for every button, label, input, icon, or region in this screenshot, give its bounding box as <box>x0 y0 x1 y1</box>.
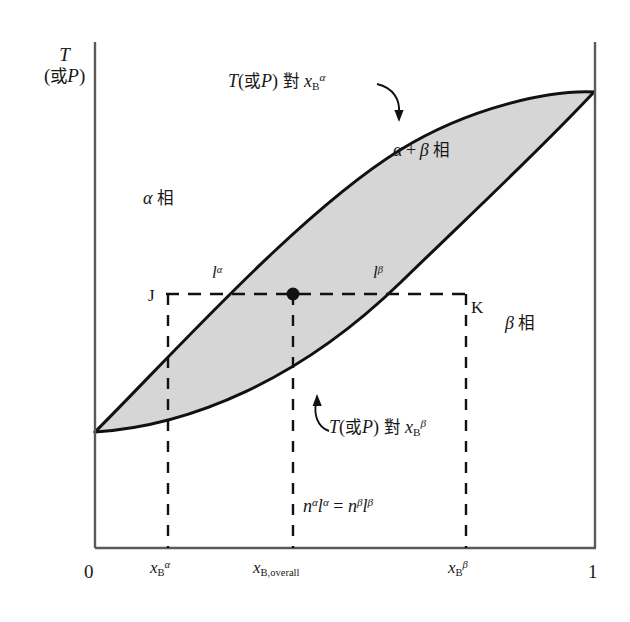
x-tick-label-x-b-overall: xB,overall <box>253 558 299 577</box>
upper-curve-annotation: T(或P) 對 xBα <box>228 71 325 92</box>
han-versus-glyph: 對 <box>283 72 300 91</box>
overall-composition-marker <box>287 288 300 301</box>
han-or-glyph: 或 <box>244 72 261 91</box>
phase-diagram-figure: T (或P) T(或P) 對 xBα T(或P) 對 xBβ α + β 相 α… <box>0 0 630 622</box>
x-tick-label-one: 1 <box>588 561 598 582</box>
lower-curve-annotation: T(或P) 對 xBβ <box>329 417 426 438</box>
two-phase-region-fill <box>95 92 594 432</box>
tie-line-left-segment-label: lα <box>212 263 222 282</box>
x-tick-label-x-b-alpha: xBα <box>150 558 170 577</box>
lever-rule-equation: nαlα = nβlβ <box>303 496 373 516</box>
point-k-label: K <box>471 298 483 317</box>
alpha-phase-region-label: α 相 <box>143 188 174 209</box>
y-axis-label-line1: T <box>44 44 85 65</box>
han-versus-glyph: 對 <box>384 418 401 437</box>
upper-curve-arrowhead <box>394 110 403 122</box>
point-j-label: J <box>148 286 155 305</box>
han-phase-glyph: 相 <box>157 189 174 208</box>
alpha-beta-phase-region-label: α + β 相 <box>393 140 450 161</box>
upper-curve-leader-arrow <box>377 84 399 113</box>
han-phase-glyph: 相 <box>518 314 535 333</box>
lower-curve-arrowhead <box>313 394 322 406</box>
han-phase-glyph: 相 <box>433 141 450 160</box>
lower-curve-leader-arrow <box>315 403 329 431</box>
tie-line-right-segment-label: lβ <box>373 263 383 282</box>
x-tick-label-x-b-beta: xBβ <box>448 558 468 577</box>
x-tick-label-zero: 0 <box>84 561 94 582</box>
han-or-glyph: 或 <box>345 418 362 437</box>
han-or-glyph: 或 <box>50 66 67 86</box>
beta-phase-region-label: β 相 <box>505 313 535 334</box>
phase-diagram-canvas <box>0 0 630 622</box>
y-axis-label-line2: (或P) <box>44 65 85 87</box>
y-axis-label: T (或P) <box>44 44 85 87</box>
